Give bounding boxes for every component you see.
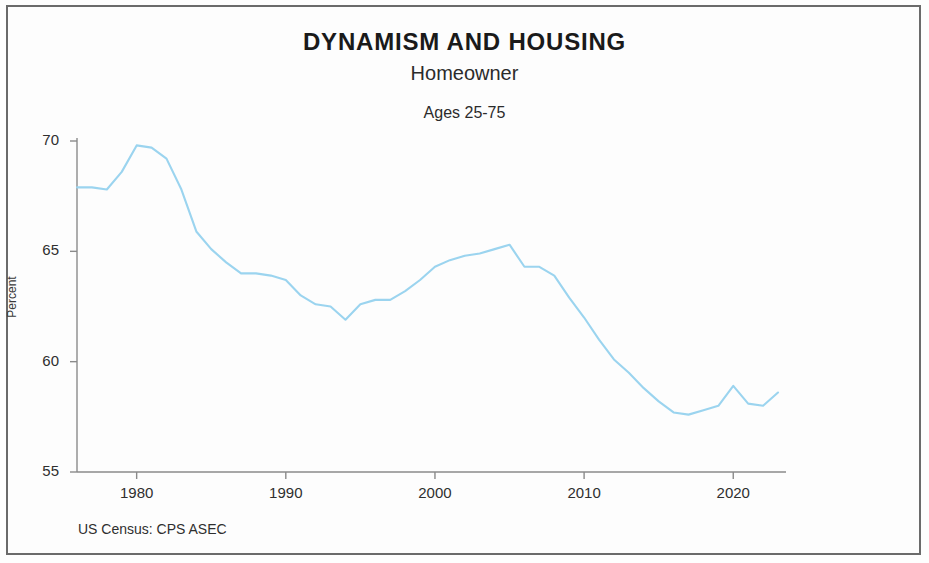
chart-page: DYNAMISM AND HOUSING Homeowner Ages 25-7… bbox=[0, 0, 929, 563]
series-line-0 bbox=[77, 145, 778, 414]
x-tick-label: 2020 bbox=[703, 484, 763, 501]
x-tick-label: 1980 bbox=[107, 484, 167, 501]
x-tick-label: 2010 bbox=[554, 484, 614, 501]
axis-ticks bbox=[70, 141, 733, 479]
x-tick-label: 2000 bbox=[405, 484, 465, 501]
x-tick-label: 1990 bbox=[256, 484, 316, 501]
y-tick-label: 65 bbox=[19, 241, 59, 258]
axes bbox=[77, 138, 786, 472]
y-tick-label: 60 bbox=[19, 352, 59, 369]
data-series bbox=[77, 145, 778, 414]
y-tick-label: 55 bbox=[19, 462, 59, 479]
chart-plot-area bbox=[0, 0, 929, 563]
y-tick-label: 70 bbox=[19, 131, 59, 148]
